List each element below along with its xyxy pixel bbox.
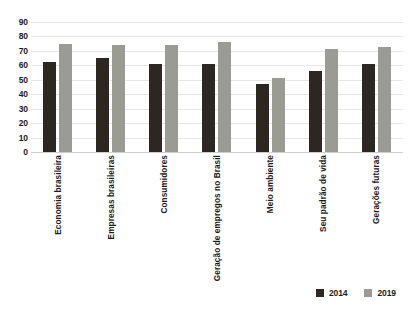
- y-tick-label-70: 70: [19, 46, 28, 56]
- x-label-cell: Consumidores: [137, 155, 190, 275]
- y-tick-label-40: 40: [19, 89, 28, 99]
- bar-group: [350, 22, 403, 152]
- legend-swatch-2014: [316, 289, 324, 297]
- y-tick-label-10: 10: [19, 133, 28, 143]
- x-tick-label-6: Gerações futuras: [372, 155, 381, 224]
- bar-2019-1: [112, 45, 125, 152]
- bar-2019-3: [218, 42, 231, 152]
- x-label-cell: Meio ambiente: [244, 155, 297, 275]
- x-label-cell: Economia brasileira: [31, 155, 84, 275]
- bar-chart: 9080706050403020100 Economia brasileiraE…: [0, 0, 410, 311]
- bar-2019-5: [325, 49, 338, 152]
- bar-group: [297, 22, 350, 152]
- bar-group: [31, 22, 84, 152]
- bar-2014-1: [96, 58, 109, 152]
- x-tick-label-5: Seu padrão de vida: [319, 155, 328, 232]
- x-tick-label-2: Consumidores: [159, 155, 168, 214]
- bar-group: [244, 22, 297, 152]
- x-label-cell: Seu padrão de vida: [297, 155, 350, 275]
- bar-2014-6: [362, 64, 375, 152]
- legend-item-2019[interactable]: 2019: [364, 288, 396, 298]
- y-tick-label-60: 60: [19, 60, 28, 70]
- bar-2019-2: [165, 45, 178, 152]
- x-label-cell: Geração de empregos no Brasil: [190, 155, 243, 275]
- bar-2014-3: [202, 64, 215, 152]
- legend-label-2019: 2019: [377, 288, 396, 298]
- bar-2014-5: [309, 71, 322, 152]
- gridline-0: [31, 152, 403, 153]
- bar-2019-6: [378, 47, 391, 152]
- x-label-cell: Gerações futuras: [350, 155, 403, 275]
- x-tick-label-3: Geração de empregos no Brasil: [212, 155, 221, 281]
- y-tick-label-90: 90: [19, 17, 28, 27]
- legend-label-2014: 2014: [329, 288, 348, 298]
- bar-2019-0: [59, 44, 72, 152]
- legend-swatch-2019: [364, 289, 372, 297]
- y-tick-label-0: 0: [23, 147, 28, 157]
- bar-group: [137, 22, 190, 152]
- bar-2014-0: [43, 62, 56, 152]
- legend-item-2014[interactable]: 2014: [316, 288, 348, 298]
- y-tick-label-20: 20: [19, 118, 28, 128]
- bar-group: [190, 22, 243, 152]
- x-label-cell: Empresas brasileiras: [84, 155, 137, 275]
- x-tick-label-1: Empresas brasileiras: [106, 155, 115, 239]
- bar-2014-2: [149, 64, 162, 152]
- chart-title-clipped: [0, 0, 410, 8]
- bar-groups: [31, 22, 403, 152]
- x-tick-label-4: Meio ambiente: [266, 155, 275, 213]
- bar-2019-4: [272, 78, 285, 152]
- bar-2014-4: [256, 84, 269, 152]
- y-tick-label-30: 30: [19, 104, 28, 114]
- y-axis: 9080706050403020100: [0, 22, 28, 152]
- x-tick-label-0: Economia brasileira: [53, 155, 62, 235]
- bar-group: [84, 22, 137, 152]
- x-axis-labels: Economia brasileiraEmpresas brasileirasC…: [31, 155, 403, 275]
- chart-legend: 20142019: [316, 288, 396, 298]
- y-tick-label-80: 80: [19, 31, 28, 41]
- y-tick-label-50: 50: [19, 75, 28, 85]
